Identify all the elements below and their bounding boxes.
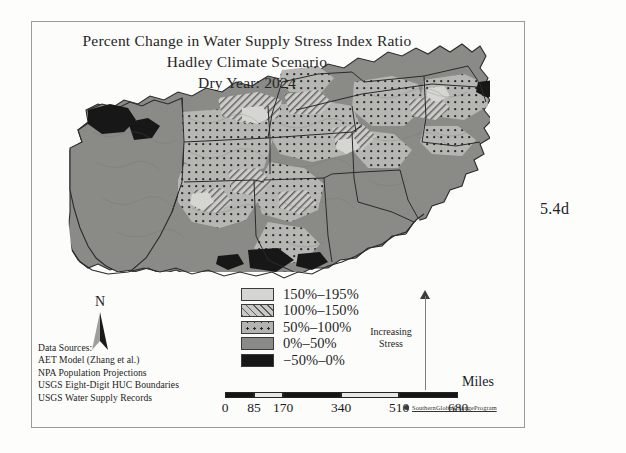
legend-label-50-100: 50%–100%	[283, 319, 351, 336]
figure-root: Percent Change in Water Supply Stress In…	[0, 0, 626, 453]
data-sources-line-3: NPA Population Projections	[38, 367, 179, 379]
north-label: N	[80, 294, 120, 310]
legend-swatch-50-100	[241, 321, 274, 334]
stress-label: Increasing Stress	[362, 326, 420, 350]
legend-swatch-0-50	[241, 337, 274, 350]
legend-label-neg50-0: −50%–0%	[283, 352, 345, 369]
data-sources-block: Data Sources: AET Model (Zhang et al.) N…	[38, 342, 179, 404]
figure-number: 5.4d	[540, 200, 569, 218]
legend-item: −50%–0%	[241, 352, 359, 369]
legend-label-0-50: 0%–50%	[283, 335, 337, 352]
legend-item: 150%–195%	[241, 286, 359, 303]
legend-label-100-150: 100%–150%	[283, 302, 359, 319]
scale-seg-170-340	[283, 392, 341, 398]
scale-tick-340: 340	[331, 400, 351, 416]
legend-swatch-100-150	[241, 304, 274, 317]
attribution-text[interactable]: SouthernGlobalChangeProgram	[412, 404, 497, 411]
attribution[interactable]: SouthernGlobalChangeProgram	[404, 404, 497, 411]
data-sources-line-2: AET Model (Zhang et al.)	[38, 354, 179, 366]
scale-tick-170: 170	[273, 400, 293, 416]
data-sources-line-5: USGS Water Supply Records	[38, 392, 179, 404]
stress-label-line-2: Stress	[362, 338, 420, 350]
map-legend: 150%–195% 100%–150% 50%–100% 0%–50% −50%…	[241, 286, 359, 369]
scale-units-label: Miles	[462, 374, 494, 390]
legend-swatch-neg50-0	[241, 354, 274, 367]
scale-tick-85: 85	[247, 400, 261, 416]
scale-seg-85-170	[254, 392, 283, 398]
scale-bar-track	[225, 392, 458, 398]
scale-seg-340-510	[341, 392, 399, 398]
map-figure-frame: Percent Change in Water Supply Stress In…	[31, 21, 525, 428]
legend-label-150-195: 150%–195%	[283, 286, 359, 303]
program-logo-icon	[404, 405, 409, 410]
scale-seg-0-85	[225, 392, 254, 398]
legend-item: 0%–50%	[241, 336, 359, 353]
legend-item: 100%–150%	[241, 303, 359, 320]
increasing-stress-indicator: Increasing Stress	[362, 290, 457, 392]
stress-label-line-1: Increasing	[362, 326, 420, 338]
stress-axis-line	[425, 296, 426, 390]
legend-swatch-150-195	[241, 288, 274, 301]
scale-seg-510-680	[399, 392, 458, 398]
scale-tick-0: 0	[222, 400, 229, 416]
legend-item: 50%–100%	[241, 319, 359, 336]
data-sources-line-4: USGS Eight-Digit HUC Boundaries	[38, 379, 179, 391]
data-sources-line-1: Data Sources:	[38, 342, 179, 354]
